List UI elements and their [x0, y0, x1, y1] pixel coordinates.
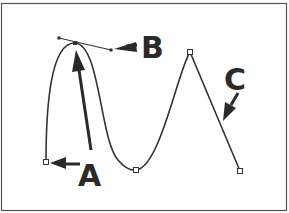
anchor-point-valley[interactable] [134, 168, 139, 173]
anchor-point-corner[interactable] [188, 50, 193, 55]
label-c: C [224, 62, 246, 97]
direction-point-left[interactable] [57, 36, 61, 40]
label-a: A [78, 158, 102, 193]
direction-point-right[interactable] [109, 48, 113, 52]
anchor-point-end[interactable] [238, 169, 243, 174]
anchor-point-start[interactable] [44, 160, 49, 165]
label-b: B [141, 30, 164, 65]
bezier-path-diagram: A B C [0, 0, 289, 213]
smooth-anchor-point[interactable] [73, 41, 77, 45]
diagram-frame: A B C [0, 0, 289, 213]
